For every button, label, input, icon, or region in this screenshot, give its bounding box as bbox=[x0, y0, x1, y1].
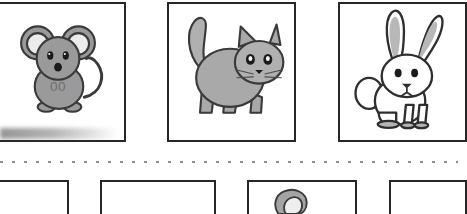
answer-box-1[interactable] bbox=[0, 180, 69, 214]
answer-box-4[interactable] bbox=[389, 180, 467, 214]
mouse-belly-marking: 00 bbox=[50, 79, 66, 94]
picture-card-cat[interactable] bbox=[167, 2, 296, 142]
mouse-icon: 00 bbox=[0, 4, 124, 140]
answer-box-2[interactable] bbox=[100, 180, 216, 214]
picture-card-rabbit[interactable] bbox=[338, 2, 467, 142]
grey-blob-icon bbox=[249, 182, 355, 214]
cat-icon bbox=[169, 4, 294, 140]
picture-card-mouse[interactable]: 00 bbox=[0, 2, 126, 142]
rabbit-icon bbox=[340, 4, 465, 140]
dotted-cut-line bbox=[0, 160, 458, 163]
answer-box-3[interactable] bbox=[247, 180, 357, 214]
